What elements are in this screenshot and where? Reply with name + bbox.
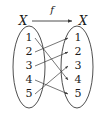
mapping-arrow-3-to-2 [35, 52, 68, 66]
diagram-canvas: X --> X f X 1 2 3 4 5 1 2 3 4 5 [0, 0, 102, 116]
mapping-arrow-5-to-3 [35, 66, 68, 94]
domain-set-label-top: X [18, 14, 28, 28]
function-mapping-figure: X --> X f X 1 2 3 4 5 1 2 3 4 5 [0, 0, 102, 116]
function-name-label: f [49, 4, 56, 15]
codomain-element-4: 4 [75, 73, 82, 86]
domain-element-2: 2 [26, 45, 33, 58]
domain-element-4: 4 [26, 73, 33, 86]
codomain-element-5: 5 [75, 87, 82, 100]
codomain-element-1: 1 [75, 31, 82, 44]
domain-element-1: 1 [26, 31, 33, 44]
codomain-element-2: 2 [75, 45, 82, 58]
domain-element-5: 5 [26, 87, 33, 100]
domain-element-3: 3 [26, 59, 33, 72]
codomain-element-3: 3 [75, 59, 82, 72]
